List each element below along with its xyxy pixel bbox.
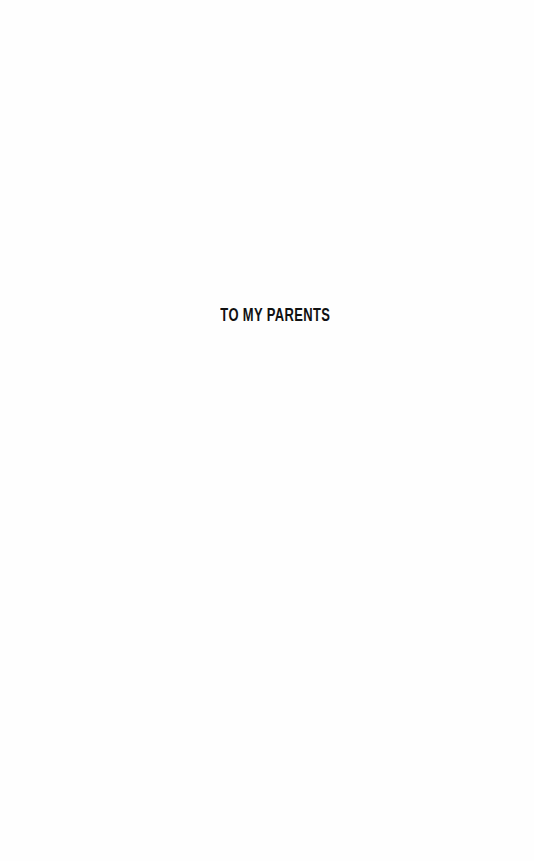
dedication-text: TO MY PARENTS [220, 305, 330, 325]
book-page: TO MY PARENTS [0, 0, 534, 861]
dedication: TO MY PARENTS [0, 305, 534, 325]
